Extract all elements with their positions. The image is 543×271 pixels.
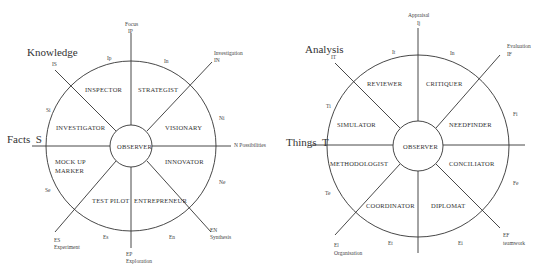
pole-title-synthesis: Synthesis: [210, 234, 231, 240]
role-marker: MARKER: [55, 167, 84, 174]
pole-code-en: EN: [210, 227, 217, 233]
role-inspector: INSPECTOR: [85, 86, 122, 93]
pole-code-el: El: [334, 242, 339, 248]
ring-code-ti: Ti: [326, 103, 331, 109]
pole-code-ef: EF: [503, 232, 509, 238]
pole-code-in: IN: [214, 57, 220, 63]
pole-title-experiment: Experiment: [54, 244, 80, 250]
role-conciliator: CONCILIATOR: [449, 160, 494, 167]
pole-title-organisation: Organisation: [334, 250, 362, 256]
pole-title-appraisal: Appraisal: [408, 12, 429, 18]
pole-code-es: ES: [54, 237, 60, 243]
pole-code-is: IS: [52, 61, 57, 67]
left-center-observer: OBSERVER: [117, 143, 152, 150]
ring-code-it: It: [392, 49, 395, 55]
ring-code-et: Et: [388, 240, 393, 246]
ring-code-fe: Fe: [513, 180, 519, 186]
analysis-label: Analysis: [305, 43, 344, 56]
pole-code-if: IF: [507, 51, 512, 57]
role-reviewer: REVIEWER: [367, 80, 402, 87]
ring-code-te: Te: [325, 190, 330, 196]
diagram-lines: [0, 0, 543, 271]
role-coordinator: COORDINATOR: [366, 202, 415, 209]
pole-title-evaluation: Evaluation: [507, 43, 531, 49]
role-needfinder: NEEDFINDER: [449, 121, 492, 128]
pole-title-investigation: Investigation: [214, 50, 243, 56]
ring-code-ne: Ne: [219, 179, 225, 185]
ring-code-en: En: [169, 234, 175, 240]
role-innovator: INNOVATOR: [165, 158, 204, 165]
ring-code-es: Es: [103, 234, 109, 240]
role-investigator: INVESTIGATOR: [56, 124, 105, 131]
ring-code-fi: Fi: [513, 111, 518, 117]
pole-code-it: IT: [331, 54, 336, 60]
ring-code-se: Se: [45, 187, 51, 193]
ring-code-in-right: In: [450, 50, 455, 56]
role-simulator: SIMULATOR: [337, 121, 376, 128]
pole-code-ij: Ij: [417, 20, 420, 26]
ring-code-si: Si: [46, 107, 51, 113]
role-critiquer: CRITIQUER: [426, 80, 462, 87]
knowledge-label: Knowledge: [27, 46, 78, 59]
pole-code-ip: IP: [128, 28, 133, 34]
ring-code-in: In: [164, 58, 169, 64]
pole-title-focus: Focus: [125, 21, 138, 27]
role-methodologist: METHODOLOGIST: [330, 160, 388, 167]
role-mock-up: MOCK UP: [55, 158, 86, 165]
pole-possibilities: N Possibilities: [234, 142, 266, 148]
pole-code-ep: EP: [126, 251, 132, 257]
role-strategist: STRATEGIST: [138, 86, 178, 93]
ring-code-ei: Ei: [458, 240, 463, 246]
role-entrepreneur: ENTREPRENEUR: [134, 197, 187, 204]
facts-label: Facts S: [7, 133, 42, 146]
ring-code-ip: Ip: [107, 55, 112, 61]
role-visionary: VISIONARY: [165, 124, 202, 131]
ring-code-ni: Ni: [219, 115, 225, 121]
role-diplomat: DIPLOMAT: [431, 202, 465, 209]
pole-title-exploration: Exploration: [126, 258, 152, 264]
right-center-observer: OBSERVER: [403, 143, 438, 150]
things-label: Things T: [286, 136, 329, 149]
role-test-pilot: TEST PILOT: [92, 197, 129, 204]
pole-title-teamwork: teamwork: [503, 240, 525, 246]
